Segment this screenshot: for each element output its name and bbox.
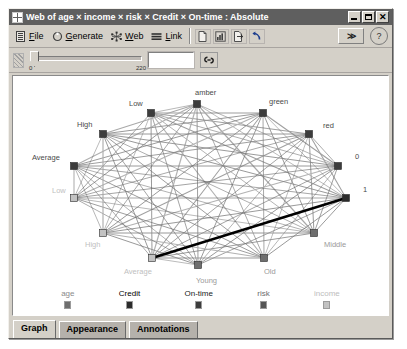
- link-threshold-slider[interactable]: 0 220: [26, 50, 144, 70]
- graph-node[interactable]: [260, 110, 267, 117]
- node-label: High: [77, 120, 92, 129]
- toolbar-overflow-button[interactable]: ≫: [338, 28, 364, 44]
- generate-icon: [52, 31, 63, 42]
- menu-web[interactable]: Web: [107, 29, 147, 44]
- node-label: Old: [264, 267, 276, 276]
- node-label: Low: [129, 99, 143, 108]
- edge: [74, 104, 197, 166]
- menu-link-text: ink: [170, 31, 182, 41]
- minimize-button[interactable]: [348, 11, 361, 23]
- graph-node[interactable]: [148, 110, 155, 117]
- highlighted-edge[interactable]: [152, 198, 346, 258]
- bar-chart-icon: [215, 31, 226, 42]
- legend-item[interactable]: risk: [257, 289, 269, 309]
- node-label: Middle: [324, 240, 346, 249]
- edge: [152, 166, 338, 258]
- node-label: High: [85, 240, 100, 249]
- node-label: Average: [32, 153, 60, 162]
- edge: [198, 198, 346, 265]
- document-icon: [197, 31, 208, 42]
- graph-node[interactable]: [149, 255, 156, 262]
- menu-generate-mnemonic: G: [66, 31, 73, 41]
- network-web-plot[interactable]: Lowambergreenred01MiddleOldYoungAverageH…: [13, 76, 386, 291]
- tab-appearance[interactable]: Appearance: [59, 321, 127, 338]
- legend-item[interactable]: On-time: [184, 289, 212, 309]
- title-bar: Web of age × income × risk × Credit × On…: [9, 9, 392, 25]
- graph-node[interactable]: [100, 131, 107, 138]
- graph-node[interactable]: [335, 163, 342, 170]
- undo-button[interactable]: [249, 29, 265, 44]
- graph-node[interactable]: [343, 195, 350, 202]
- web-document-icon: [12, 12, 23, 23]
- menu-link-label: Link: [165, 31, 182, 41]
- slider-min-label: 0: [29, 65, 32, 71]
- web-icon: [111, 31, 122, 42]
- graph-node[interactable]: [306, 131, 313, 138]
- threshold-value-input[interactable]: [148, 52, 194, 68]
- application-window: Web of age × income × risk × Credit × On…: [8, 8, 393, 339]
- graph-node[interactable]: [195, 262, 202, 269]
- export-button[interactable]: [231, 29, 247, 44]
- edge: [197, 104, 198, 265]
- chart-button[interactable]: [213, 29, 229, 44]
- edge: [152, 233, 314, 258]
- graph-node[interactable]: [261, 255, 268, 262]
- node-label: Low: [52, 186, 66, 195]
- menu-generate-text: enerate: [73, 31, 104, 41]
- node-label: amber: [195, 88, 217, 97]
- menu-file-text: ile: [35, 31, 44, 41]
- link-icon: [151, 31, 162, 42]
- slider-max-label: 220: [136, 65, 146, 71]
- legend-item[interactable]: income: [314, 289, 340, 309]
- edge: [103, 104, 197, 134]
- graph-canvas[interactable]: Lowambergreenred01MiddleOldYoungAverageH…: [12, 75, 389, 316]
- legend-swatch[interactable]: [126, 301, 133, 309]
- help-button[interactable]: ?: [370, 27, 388, 45]
- legend-item[interactable]: Credit: [119, 289, 140, 309]
- toolbar: File Generate: [9, 25, 392, 48]
- graph-node[interactable]: [71, 163, 78, 170]
- legend-swatch[interactable]: [64, 301, 71, 309]
- node-label: 0: [355, 152, 359, 161]
- menu-web-text: eb: [133, 31, 143, 41]
- legend-item-label: risk: [257, 289, 269, 298]
- window-title: Web of age × income × risk × Credit × On…: [26, 12, 348, 22]
- edge: [263, 113, 264, 258]
- legend-swatch[interactable]: [323, 301, 330, 309]
- close-icon: ✕: [379, 12, 387, 22]
- node-label: 1: [363, 185, 367, 194]
- tab-bar: GraphAppearanceAnnotations: [9, 318, 392, 338]
- chain-link-icon: [203, 54, 215, 66]
- graph-node[interactable]: [194, 101, 201, 108]
- drag-handle[interactable]: [13, 53, 24, 68]
- menu-file[interactable]: File: [11, 29, 48, 44]
- tab-annotations[interactable]: Annotations: [129, 321, 198, 338]
- close-button[interactable]: ✕: [376, 11, 389, 23]
- node-label: Young: [196, 276, 217, 285]
- graph-node[interactable]: [100, 230, 107, 237]
- menu-generate-label: Generate: [66, 31, 104, 41]
- legend-item-label: Credit: [119, 289, 140, 298]
- node-label: green: [269, 97, 288, 106]
- slider-track[interactable]: [32, 56, 142, 61]
- edge: [309, 134, 338, 166]
- export-icon: [233, 31, 244, 42]
- graph-node[interactable]: [71, 195, 78, 202]
- menu-generate[interactable]: Generate: [48, 29, 108, 44]
- menu-file-label: File: [29, 31, 44, 41]
- maximize-button[interactable]: [362, 11, 375, 23]
- file-menu-icon: [15, 31, 26, 42]
- legend-item[interactable]: age: [61, 289, 74, 309]
- graph-node[interactable]: [311, 230, 318, 237]
- tab-graph[interactable]: Graph: [13, 320, 56, 338]
- edge: [151, 113, 152, 258]
- link-toggle-button[interactable]: [200, 52, 218, 68]
- legend-swatch[interactable]: [260, 301, 267, 309]
- legend-item-label: age: [61, 289, 74, 298]
- new-document-button[interactable]: [195, 29, 211, 44]
- node-label: red: [323, 121, 334, 130]
- menu-link[interactable]: Link: [147, 29, 186, 44]
- legend-item-label: On-time: [184, 289, 212, 298]
- legend-swatch[interactable]: [195, 301, 202, 309]
- menu-web-label: Web: [125, 31, 143, 41]
